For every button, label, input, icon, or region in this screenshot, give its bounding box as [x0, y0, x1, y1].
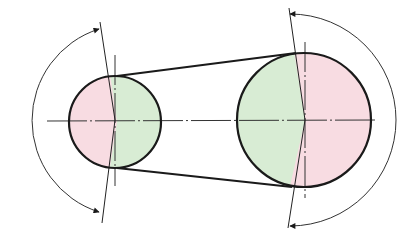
belt-drive-diagram: [0, 0, 408, 236]
